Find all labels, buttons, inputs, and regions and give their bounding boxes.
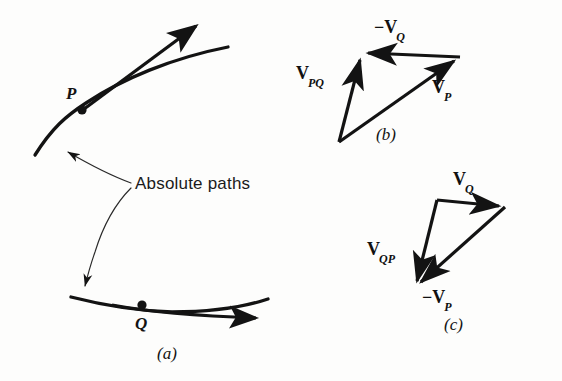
vector-label-vq: VQ — [453, 170, 475, 192]
vector-label-minus-vp: −VP — [422, 288, 453, 310]
vector-label-vpq-sub: PQ — [308, 76, 324, 90]
point-p-marker — [77, 105, 86, 114]
vector-label-vp: VP — [432, 78, 452, 100]
figure-root: P Q Absolute paths (a) VPQ −VQ VP (b) VQ… — [0, 0, 562, 381]
vector-label-minus-vp-sub: P — [444, 300, 451, 314]
upper-absolute-path-curve — [35, 47, 228, 155]
vector-label-minus-vq: −VQ — [374, 18, 406, 40]
point-q-marker — [137, 300, 146, 309]
panel-c-caption: (c) — [444, 316, 463, 333]
vector-label-minus-vq-sign: − — [374, 17, 384, 37]
point-p-label: P — [66, 85, 76, 102]
vector-vq-arrow — [437, 200, 499, 206]
panel-a-artwork — [35, 26, 268, 318]
vector-label-vp-sub: P — [444, 90, 451, 104]
point-q-label: Q — [135, 315, 147, 332]
vector-label-vqp-sub: QP — [379, 252, 395, 266]
vector-label-vpq: VPQ — [296, 64, 325, 86]
panel-b-caption: (b) — [376, 126, 396, 143]
absolute-paths-callout: Absolute paths — [135, 175, 250, 192]
panel-c-artwork — [417, 200, 505, 282]
vector-minus-vq-arrow — [368, 53, 460, 57]
figure-canvas — [0, 0, 562, 381]
panel-a-caption: (a) — [157, 345, 177, 362]
callout-leader-upper — [68, 152, 131, 183]
vector-label-vqp: VQP — [367, 240, 396, 262]
vector-label-minus-vp-sign: − — [422, 287, 432, 307]
vector-label-minus-vq-sub: Q — [396, 30, 405, 44]
lower-absolute-path-curve — [71, 297, 268, 312]
vector-label-vq-sub: Q — [465, 182, 474, 196]
upper-path-tangent-arrow — [80, 26, 196, 112]
callout-leader-lower — [85, 188, 131, 286]
